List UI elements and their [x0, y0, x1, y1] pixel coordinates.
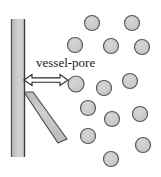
- vessel-pore-arrow: [24, 75, 68, 86]
- particle: [133, 107, 148, 122]
- diagram-canvas: [0, 0, 161, 177]
- vessel-pore-diagram: vessel-pore: [0, 0, 161, 177]
- particle: [85, 16, 100, 31]
- particle: [125, 16, 140, 31]
- branch-wall: [24, 92, 67, 143]
- vessel-pore-label: vessel-pore: [36, 56, 95, 69]
- particle: [68, 38, 83, 53]
- particle: [135, 40, 150, 55]
- vessel-wall: [11, 19, 25, 157]
- particle-group: [68, 16, 151, 167]
- particle: [81, 129, 96, 144]
- particle: [136, 138, 151, 153]
- particle: [97, 81, 112, 96]
- particle: [104, 39, 119, 54]
- particle: [81, 101, 96, 116]
- particle: [123, 74, 138, 89]
- particle: [105, 112, 120, 127]
- particle: [104, 152, 119, 167]
- particle: [68, 76, 84, 92]
